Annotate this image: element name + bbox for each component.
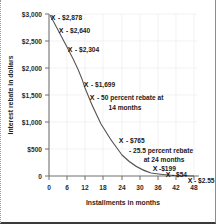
data-marker-2640: X xyxy=(59,27,64,34)
x-tick-labels: 0 6 12 18 24 30 36 42 48 xyxy=(47,184,198,191)
x-tick-label-48: 48 xyxy=(190,184,198,191)
data-marker-1500: X xyxy=(90,94,95,101)
data-marker-255: X xyxy=(188,177,193,184)
y-tick-label-1500: $1,500 xyxy=(22,92,43,100)
y-tick-label-2000: $2,000 xyxy=(22,65,43,73)
data-marker-2878: X xyxy=(51,14,56,21)
x-tick-label-12: 12 xyxy=(81,184,89,191)
data-marker-765: X xyxy=(119,137,124,144)
annotation-255-percent-line2: at 24 months xyxy=(144,156,185,163)
data-marker-199: X xyxy=(153,165,158,172)
x-tick-label-36: 36 xyxy=(154,184,162,191)
chart-canvas: $3,000 $2,500 $2,000 $1,500 $1,000 $500 … xyxy=(1,0,216,224)
annotation-2304: - $2,304 xyxy=(75,46,100,54)
chart-page: $3,000 $2,500 $2,000 $1,500 $1,000 $500 … xyxy=(0,0,216,224)
x-tick-label-42: 42 xyxy=(172,184,180,191)
annotation-54: - $54 xyxy=(172,171,187,179)
y-tick-marks xyxy=(45,14,49,176)
annotation-1699: - $1,699 xyxy=(91,81,116,89)
data-marker-54: X xyxy=(166,171,171,178)
y-tick-label-0: 0 xyxy=(38,173,42,180)
data-marker-1699: X xyxy=(84,81,89,88)
annotation-50-percent-line2: 14 months xyxy=(109,104,142,111)
y-tick-label-3000: $3,000 xyxy=(22,11,43,19)
x-tick-label-18: 18 xyxy=(99,184,107,191)
x-tick-label-30: 30 xyxy=(136,184,144,191)
data-marker-2304: X xyxy=(68,46,73,53)
annotation-2878: - $2,878 xyxy=(58,14,83,22)
x-tick-label-6: 6 xyxy=(65,184,69,191)
annotation-2640: - $2,640 xyxy=(66,27,91,35)
y-tick-labels: $3,000 $2,500 $2,000 $1,500 $1,000 $500 … xyxy=(22,11,43,180)
y-tick-label-2500: $2,500 xyxy=(22,38,43,46)
y-tick-label-500: $500 xyxy=(27,146,42,154)
annotation-50-percent-line1: - 50 percent rebate at xyxy=(97,94,164,102)
annotation-255: - $2.55 xyxy=(194,177,215,185)
y-axis-title: Interest rebate in dollars xyxy=(7,55,14,134)
y-tick-label-1000: $1,000 xyxy=(22,119,43,127)
annotation-255-percent-line1: - 25.5 percent rebate xyxy=(129,147,193,155)
data-annotations: - $2,878 - $2,640 - $2,304 - $1,699 - 50… xyxy=(58,14,215,185)
x-tick-label-24: 24 xyxy=(118,184,126,191)
x-axis-title: Installments in months xyxy=(86,199,160,206)
x-tick-label-0: 0 xyxy=(47,184,51,191)
rebate-decay-chart: $3,000 $2,500 $2,000 $1,500 $1,000 $500 … xyxy=(1,0,215,222)
annotation-765: - $765 xyxy=(126,137,145,145)
